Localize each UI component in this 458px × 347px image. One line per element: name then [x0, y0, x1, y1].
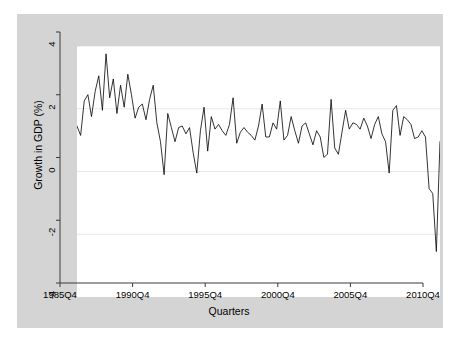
- x-axis-tick-label: 2010Q4: [388, 289, 458, 300]
- gdp-growth-line-chart: [77, 46, 440, 297]
- graph-region: [17, 14, 443, 328]
- y-axis-tick-label-text: 0: [47, 158, 57, 182]
- y-axis-tick-label-text: 2: [47, 95, 57, 119]
- y-axis-title: Growth in GDP (%): [32, 45, 44, 245]
- y-axis-tick-label: 4: [36, 27, 52, 37]
- gdp-growth-series-line: [77, 54, 440, 252]
- y-axis-tick-label-text: -2: [47, 220, 57, 244]
- x-axis-tick-label: 1990Q4: [98, 289, 168, 300]
- x-axis-tick-label: 1995Q4: [170, 289, 240, 300]
- x-axis-tick-label: 2000Q4: [243, 289, 313, 300]
- x-axis-tick-label: 1985Q4: [25, 289, 95, 300]
- y-axis-tick-label-text: 4: [47, 32, 57, 56]
- figure-root: 420-2-4 Growth in GDP (%) 1985Q41990Q419…: [0, 0, 458, 347]
- plot-region: [77, 46, 440, 297]
- gridlines-group: [77, 46, 440, 234]
- x-axis-title: Quarters: [0, 305, 458, 317]
- y-axis-tick-label: -4: [36, 278, 52, 288]
- x-axis-tick-label: 2005Q4: [315, 289, 385, 300]
